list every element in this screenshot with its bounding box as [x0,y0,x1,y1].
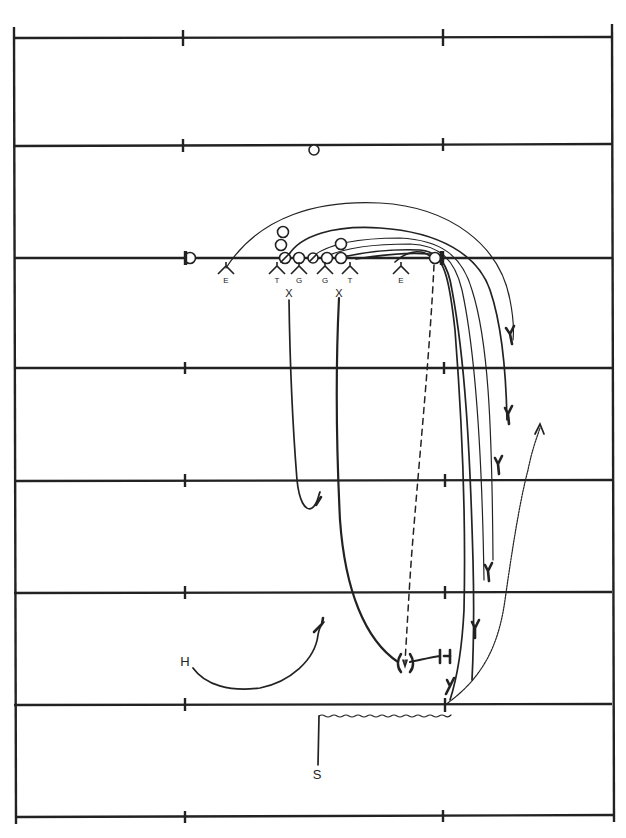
defender-guard-right: G [317,262,333,285]
linebacker-left: X [285,287,293,299]
yard-line-6 [14,592,612,593]
yard-line-7 [14,704,612,705]
linebacker-right: X [335,287,343,299]
yard-line-5 [14,480,612,481]
player-end-right [430,253,441,264]
play-diagram: E T G G T E X X H S [0,0,626,838]
route-block-line [410,656,440,662]
player-back-mid [276,240,287,251]
pass-dashed-line [405,265,434,662]
halfback-label: H [180,654,189,669]
defender-end-left: E [218,262,234,285]
player-deep [309,145,319,155]
route-s-wavy [319,715,451,717]
route-s [318,716,319,765]
player-guard-right [322,253,333,264]
label-e: E [223,276,228,285]
player-back-right [336,239,347,250]
label-g: G [296,276,302,285]
yard-line-1 [14,37,612,38]
block-marks [314,326,514,694]
label-g: G [322,276,328,285]
route-arc-6 [356,253,465,700]
player-guard-left [294,253,305,264]
defender-guard-left: G [291,262,307,285]
route-h [193,622,324,689]
route-arc-5 [343,250,474,680]
defender-end-right: E [393,262,409,285]
player-back-top [278,227,289,238]
safety-label: S [313,767,322,782]
defender-tackle-left: T [269,262,285,285]
route-outer-arc [226,203,514,340]
label-t: T [348,276,353,285]
player-tackle-right [336,253,347,264]
route-arc-2 [288,227,507,420]
route-lb-left [289,300,320,509]
label-e: E [398,276,403,285]
label-t: T [275,276,280,285]
defender-tackle-right: T [342,262,358,285]
routes [193,203,544,765]
yard-line-8 [16,815,614,817]
